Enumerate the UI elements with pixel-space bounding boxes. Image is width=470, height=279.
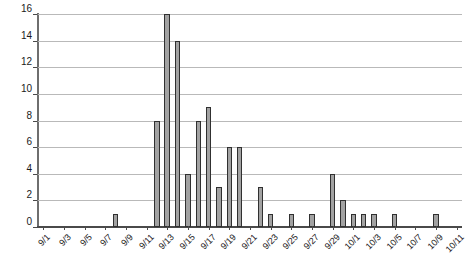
y-axis-tick-label: 16 bbox=[8, 4, 32, 14]
bar bbox=[216, 187, 221, 227]
bar bbox=[371, 214, 376, 227]
y-axis-tick-label: 2 bbox=[8, 190, 32, 200]
x-axis-tick bbox=[188, 226, 189, 230]
bar bbox=[175, 41, 180, 227]
y-axis-tick bbox=[33, 94, 37, 95]
y-axis-tick-label: 10 bbox=[8, 84, 32, 94]
x-axis-tick bbox=[312, 226, 313, 230]
bar bbox=[113, 214, 118, 227]
x-axis-tick bbox=[436, 226, 437, 230]
bar bbox=[237, 147, 242, 227]
y-axis-tick bbox=[33, 67, 37, 68]
x-axis-tick bbox=[291, 226, 292, 230]
y-axis-tick bbox=[33, 41, 37, 42]
y-axis-tick bbox=[33, 147, 37, 148]
bar bbox=[268, 214, 273, 227]
x-axis-tick bbox=[147, 226, 148, 230]
bar bbox=[154, 121, 159, 228]
bar bbox=[340, 200, 345, 227]
y-axis-tick-label: 14 bbox=[8, 31, 32, 41]
y-axis-tick bbox=[33, 227, 37, 228]
y-axis-tick-label: 0 bbox=[8, 217, 32, 227]
x-axis-tick bbox=[333, 226, 334, 230]
x-axis-tick bbox=[209, 226, 210, 230]
bar bbox=[196, 121, 201, 228]
bar bbox=[392, 214, 397, 227]
bar bbox=[258, 187, 263, 227]
plot-area bbox=[38, 14, 462, 227]
x-axis-tick bbox=[105, 226, 106, 230]
bar bbox=[206, 107, 211, 227]
bar bbox=[351, 214, 356, 227]
bar bbox=[185, 174, 190, 227]
bar bbox=[361, 214, 366, 227]
y-axis-tick-label: 4 bbox=[8, 164, 32, 174]
x-axis-tick bbox=[167, 226, 168, 230]
x-axis-tick bbox=[85, 226, 86, 230]
y-axis-tick bbox=[33, 121, 37, 122]
bar bbox=[309, 214, 314, 227]
bar bbox=[227, 147, 232, 227]
x-axis-tick bbox=[353, 226, 354, 230]
x-axis-tick bbox=[126, 226, 127, 230]
bar bbox=[289, 214, 294, 227]
x-axis-tick bbox=[43, 226, 44, 230]
x-axis-tick bbox=[229, 226, 230, 230]
x-axis-tick bbox=[64, 226, 65, 230]
x-axis-tick bbox=[374, 226, 375, 230]
x-axis-tick bbox=[250, 226, 251, 230]
bar bbox=[164, 14, 169, 227]
y-axis-tick-label: 12 bbox=[8, 57, 32, 67]
x-axis-tick bbox=[457, 226, 458, 230]
x-axis-tick bbox=[271, 226, 272, 230]
y-axis-tick bbox=[33, 14, 37, 15]
bar bbox=[330, 174, 335, 227]
y-axis-tick-label: 8 bbox=[8, 111, 32, 121]
bars-layer bbox=[38, 14, 462, 227]
y-axis-tick bbox=[33, 200, 37, 201]
y-axis-tick-label: 6 bbox=[8, 137, 32, 147]
bar bbox=[433, 214, 438, 227]
y-axis-tick bbox=[33, 174, 37, 175]
x-axis-tick bbox=[395, 226, 396, 230]
x-axis-tick bbox=[415, 226, 416, 230]
bar-chart: 0246810121416 9/19/39/59/79/99/119/139/1… bbox=[0, 0, 470, 279]
